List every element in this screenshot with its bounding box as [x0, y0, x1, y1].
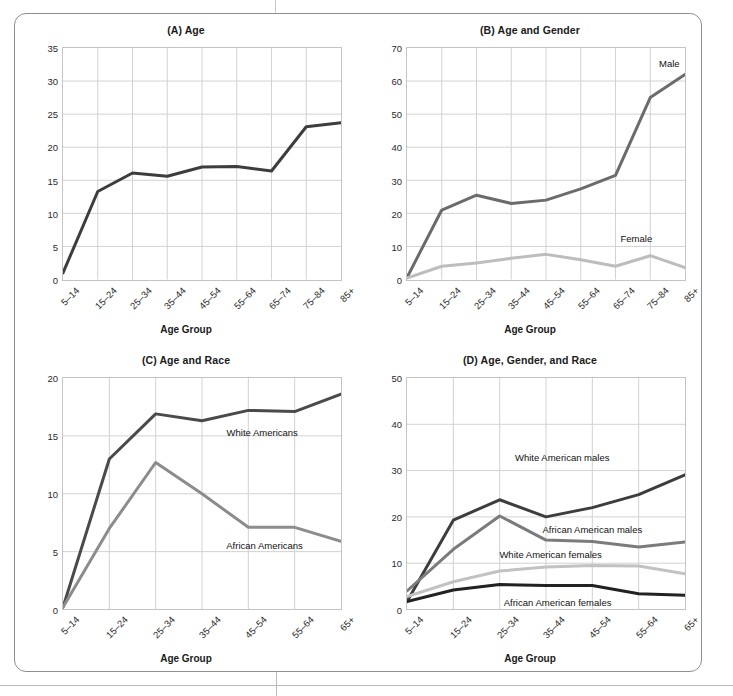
x-axis-tick-label: 55–64 — [231, 285, 257, 311]
panel-c-plot-area: 051015205–1415–2425–3435–4445–5455–6465+… — [62, 377, 342, 611]
panel-c: (C) Age and Race Suicides per 100,000 Po… — [14, 343, 358, 673]
panel-a-title: (A) Age — [14, 24, 358, 36]
x-axis-tick-label: 35–44 — [162, 285, 188, 311]
panel-a-x-axis-label: Age Group — [14, 324, 358, 335]
x-axis-tick-label: 5–14 — [403, 614, 426, 637]
y-axis-tick-label: 30 — [391, 175, 402, 186]
panel-c-x-axis-label: Age Group — [14, 653, 358, 664]
y-axis-tick-label: 20 — [391, 208, 402, 219]
x-axis-tick-label: 75–84 — [645, 285, 671, 311]
panel-d-title: (D) Age, Gender, and Race — [358, 354, 702, 366]
y-axis-tick-label: 0 — [397, 604, 402, 615]
y-axis-tick-label: 0 — [53, 604, 58, 615]
x-axis-tick-label: 65–74 — [610, 285, 636, 311]
panel-a-plot: 051015202530355–1415–2425–3435–4445–5455… — [62, 47, 342, 281]
y-axis-tick-label: 10 — [47, 488, 58, 499]
x-axis-tick-label: 65–74 — [266, 285, 292, 311]
x-axis-tick-label: 65+ — [682, 614, 701, 633]
page-rule-vertical-top — [275, 0, 276, 13]
y-axis-tick-label: 5 — [53, 546, 58, 557]
panel-a: (A) Age Suicides per 100,000 Population … — [14, 13, 358, 343]
figure-panel-grid: (A) Age Suicides per 100,000 Population … — [14, 13, 702, 672]
y-axis-tick-label: 10 — [47, 208, 58, 219]
panel-b-x-axis-label: Age Group — [358, 324, 702, 335]
y-axis-tick-label: 40 — [391, 418, 402, 429]
x-axis-tick-label: 55–64 — [289, 614, 315, 640]
y-axis-tick-label: 50 — [391, 109, 402, 120]
y-axis-tick-label: 0 — [53, 275, 58, 286]
y-axis-tick-label: 30 — [391, 465, 402, 476]
x-axis-tick-label: 5–14 — [59, 614, 82, 637]
x-axis-tick-label: 35–44 — [197, 614, 223, 640]
x-axis-tick-label: 45–54 — [243, 614, 269, 640]
y-axis-tick-label: 20 — [391, 511, 402, 522]
y-axis-tick-label: 25 — [47, 109, 58, 120]
y-axis-tick-label: 20 — [47, 142, 58, 153]
x-axis-tick-label: 15–24 — [104, 614, 130, 640]
y-axis-tick-label: 40 — [391, 142, 402, 153]
x-axis-tick-label: 5–14 — [403, 285, 426, 308]
x-axis-tick-label: 25–34 — [471, 285, 497, 311]
x-axis-tick-label: 55–64 — [633, 614, 659, 640]
x-axis-tick-label: 35–44 — [506, 285, 532, 311]
page-rule-vertical-bottom — [276, 672, 277, 696]
x-axis-tick-label: 25–34 — [494, 614, 520, 640]
y-axis-tick-label: 15 — [47, 430, 58, 441]
panel-a-plot-area: 051015202530355–1415–2425–3435–4445–5455… — [62, 47, 342, 281]
x-axis-tick-label: 45–54 — [197, 285, 223, 311]
x-axis-tick-label: 85+ — [682, 285, 701, 304]
series-inline-label: Male — [659, 57, 680, 68]
x-axis-tick-label: 85+ — [338, 285, 357, 304]
panel-d-x-axis-label: Age Group — [358, 653, 702, 664]
y-axis-tick-label: 5 — [53, 241, 58, 252]
y-axis-tick-label: 15 — [47, 175, 58, 186]
panel-c-title: (C) Age and Race — [14, 354, 358, 366]
x-axis-tick-label: 45–54 — [587, 614, 613, 640]
series-inline-label: White American males — [515, 452, 610, 463]
panel-c-plot: 051015205–1415–2425–3435–4445–5455–6465+… — [62, 377, 342, 611]
series-inline-label: African Americans — [226, 539, 303, 550]
panel-b-title: (B) Age and Gender — [358, 24, 702, 36]
x-axis-tick-label: 15–24 — [436, 285, 462, 311]
panel-b: (B) Age and Gender Suicides per 100,000 … — [358, 13, 702, 343]
x-axis-tick-label: 35–44 — [541, 614, 567, 640]
x-axis-tick-label: 45–54 — [541, 285, 567, 311]
panel-b-plot-area: 0102030405060705–1415–2425–3435–4445–545… — [406, 47, 686, 281]
y-axis-tick-label: 10 — [391, 241, 402, 252]
x-axis-tick-label: 55–64 — [575, 285, 601, 311]
y-axis-tick-label: 10 — [391, 558, 402, 569]
y-axis-tick-label: 20 — [47, 372, 58, 383]
x-axis-tick-label: 15–24 — [448, 614, 474, 640]
x-axis-tick-label: 65+ — [338, 614, 357, 633]
series-inline-label: Female — [621, 233, 653, 244]
panel-b-plot: 0102030405060705–1415–2425–3435–4445–545… — [406, 47, 686, 281]
y-axis-tick-label: 50 — [391, 372, 402, 383]
y-axis-tick-label: 60 — [391, 76, 402, 87]
x-axis-tick-label: 15–24 — [92, 285, 118, 311]
x-axis-tick-label: 25–34 — [150, 614, 176, 640]
page-rule-horizontal-bottom — [0, 685, 733, 686]
panel-d-plot: 010203040505–1415–2425–3435–4445–5455–64… — [406, 377, 686, 611]
x-axis-tick-label: 75–84 — [301, 285, 327, 311]
series-inline-label: White Americans — [227, 427, 298, 438]
panel-d: (D) Age, Gender, and Race Suicides per 1… — [358, 343, 702, 673]
y-axis-tick-label: 30 — [47, 76, 58, 87]
x-axis-tick-label: 25–34 — [127, 285, 153, 311]
x-axis-tick-label: 5–14 — [59, 285, 82, 308]
y-axis-tick-label: 0 — [397, 275, 402, 286]
series-inline-label: African American males — [542, 523, 642, 534]
panel-d-plot-area: 010203040505–1415–2425–3435–4445–5455–64… — [406, 377, 686, 611]
y-axis-tick-label: 70 — [391, 43, 402, 54]
series-inline-label: African American females — [504, 596, 612, 607]
y-axis-tick-label: 35 — [47, 43, 58, 54]
series-inline-label: White American females — [499, 548, 601, 559]
